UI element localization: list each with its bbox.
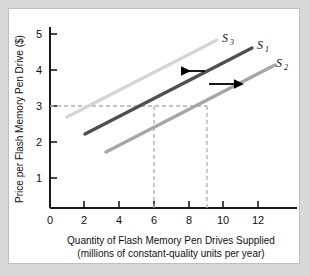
- reference-lines: [50, 106, 207, 208]
- y-tick-label-4: 4: [36, 64, 42, 76]
- x-tick-label-2: 2: [81, 214, 87, 226]
- curve-label-S3-group: S 3: [222, 31, 234, 47]
- x-tick-label-4: 4: [116, 214, 122, 226]
- curve-label-S2-subscript: 2: [284, 63, 288, 72]
- curve-label-S1: S: [257, 38, 263, 52]
- y-tick-label-3: 3: [36, 100, 42, 112]
- supply-curve-chart: 5 4 3 2 1 0 2 4 6 8 10: [9, 9, 299, 263]
- y-tick-label-1: 1: [36, 172, 42, 184]
- y-axis-title: Price per Flash Memory Pen Drive ($): [14, 35, 25, 203]
- figure-container: 5 4 3 2 1 0 2 4 6 8 10: [0, 0, 310, 276]
- y-tick-label-2: 2: [36, 136, 42, 148]
- y-tick-label-5: 5: [36, 28, 42, 40]
- curve-label-S1-subscript: 1: [265, 45, 269, 54]
- x-tick-label-12: 12: [252, 214, 264, 226]
- curve-label-S2: S: [276, 56, 282, 70]
- x-axis-ticks: [84, 201, 258, 208]
- x-tick-label-10: 10: [217, 214, 229, 226]
- y-axis-tick-labels: 5 4 3 2 1: [36, 28, 42, 184]
- x-tick-label-6: 6: [151, 214, 157, 226]
- chart-panel: 5 4 3 2 1 0 2 4 6 8 10: [8, 8, 300, 264]
- x-tick-label-0: 0: [47, 214, 53, 226]
- curve-label-S3: S: [222, 31, 228, 45]
- curve-label-S3-subscript: 3: [229, 38, 234, 47]
- supply-curves: [67, 40, 275, 152]
- x-tick-label-8: 8: [186, 214, 192, 226]
- x-axis-title-line2: (millions of constant-quality units per …: [77, 248, 264, 259]
- curve-label-S2-group: S 2: [276, 56, 288, 72]
- x-axis-tick-labels: 0 2 4 6 8 10 12: [47, 214, 264, 226]
- x-axis-title-line1: Quantity of Flash Memory Pen Drives Supp…: [67, 235, 275, 246]
- curve-label-S1-group: S 1: [257, 38, 269, 54]
